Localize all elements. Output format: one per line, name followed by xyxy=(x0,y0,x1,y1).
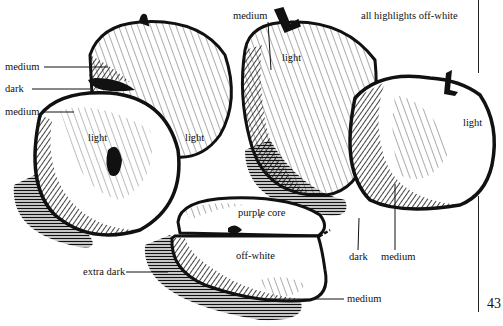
label-medium-slice: medium xyxy=(347,293,381,305)
label-medium-back-left: medium xyxy=(5,61,39,73)
label-off-white: off-white xyxy=(236,250,275,262)
front-left-apple xyxy=(35,93,179,235)
label-light-back-left: light xyxy=(185,132,204,144)
label-dark-bottom: dark xyxy=(349,251,368,263)
label-light-front-left: light xyxy=(88,132,107,144)
page-number: 43 xyxy=(487,296,501,312)
label-medium-tall-apple: medium xyxy=(233,10,267,22)
book-page: all highlights off-white medium dark med… xyxy=(0,0,503,326)
label-medium-bottom: medium xyxy=(381,251,415,263)
apple-illustration xyxy=(0,0,503,326)
label-light-tall-apple: light xyxy=(282,52,301,64)
margin-rule-bottom xyxy=(478,196,479,312)
label-light-right-apple: light xyxy=(463,117,482,129)
note-highlights: all highlights off-white xyxy=(361,10,458,22)
label-dark-left: dark xyxy=(5,83,24,95)
label-medium-front-left: medium xyxy=(5,106,39,118)
label-extra-dark: extra dark xyxy=(83,266,125,278)
label-purple-core: purple core xyxy=(238,207,286,219)
margin-rule-top xyxy=(478,0,479,73)
right-apple xyxy=(350,70,494,209)
